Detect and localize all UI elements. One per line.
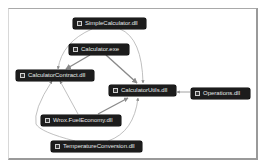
edge-calcexe-contract — [66, 55, 90, 69]
assembly-icon — [195, 91, 200, 96]
assembly-icon — [113, 88, 118, 93]
node-temperature-conversion[interactable]: TemperatureConversion.dll — [51, 141, 142, 152]
node-calculator-utils[interactable]: CalculatorUtils.dll — [109, 85, 176, 96]
node-label: TemperatureConversion.dll — [63, 141, 135, 152]
node-label: Operations.dll — [203, 88, 240, 99]
node-calculator-exe[interactable]: Calculator.exe — [69, 44, 129, 55]
edge-simple-utils — [120, 29, 143, 83]
node-label: Calculator.exe — [81, 44, 119, 55]
assembly-icon — [77, 21, 82, 26]
node-label: Wrox.FuelEconomy.dll — [53, 115, 112, 126]
edge-temp-contract — [36, 81, 75, 141]
edge-calcexe-utils — [106, 55, 137, 83]
node-calculator-contract[interactable]: CalculatorContract.dll — [16, 70, 94, 81]
assembly-icon — [45, 118, 50, 123]
node-wrox-fuel-economy[interactable]: Wrox.FuelEconomy.dll — [41, 115, 121, 126]
node-simple-calculator[interactable]: SimpleCalculator.dll — [73, 18, 146, 29]
assembly-icon — [73, 47, 78, 52]
edge-fuel-contract — [60, 81, 78, 114]
node-label: CalculatorContract.dll — [28, 70, 85, 81]
edge-fuel-utils — [98, 98, 128, 114]
node-operations[interactable]: Operations.dll — [191, 88, 250, 99]
node-label: SimpleCalculator.dll — [85, 18, 138, 29]
assembly-icon — [55, 144, 60, 149]
assembly-icon — [20, 73, 25, 78]
node-label: CalculatorUtils.dll — [121, 85, 167, 96]
